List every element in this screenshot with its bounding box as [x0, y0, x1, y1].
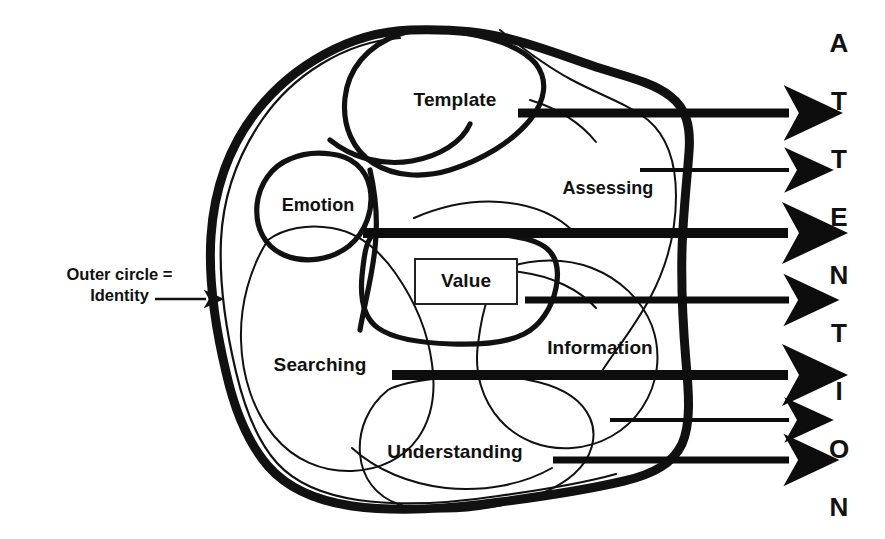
region-label-emotion: Emotion — [282, 196, 355, 215]
region-label-information: Information — [547, 338, 653, 358]
attention-letter-9: N — [830, 494, 849, 520]
attention-letter-2: T — [831, 88, 847, 114]
attention-letter-1: A — [830, 30, 849, 56]
identity-annotation-line-1: Outer circle = — [67, 265, 173, 283]
region-label-value: Value — [441, 271, 491, 291]
region-label-searching: Searching — [274, 355, 367, 375]
attention-letter-3: T — [831, 146, 847, 172]
attention-word-column: A T T E N T I O N — [812, 30, 866, 520]
attention-letter-7: I — [835, 378, 842, 404]
region-label-template: Template — [414, 90, 497, 110]
identity-annotation-line-2: Identity — [32, 285, 207, 306]
region-searching — [241, 227, 434, 472]
overlap-curve-a — [414, 202, 574, 232]
attention-letter-8: O — [829, 436, 849, 462]
region-label-understanding: Understanding — [387, 442, 522, 462]
attention-letter-4: E — [830, 204, 847, 230]
region-template-lower-arc — [330, 124, 470, 162]
identity-annotation: Outer circle = Identity — [32, 264, 207, 305]
attention-letter-5: N — [830, 262, 849, 288]
diagram-canvas: Template Emotion Assessing Value Searchi… — [0, 0, 885, 539]
region-label-assessing: Assessing — [563, 179, 654, 198]
attention-letter-6: T — [831, 320, 847, 346]
